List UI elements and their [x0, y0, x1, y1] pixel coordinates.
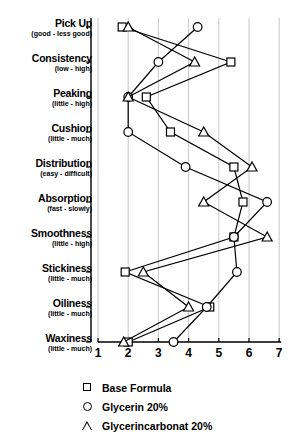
square-marker-icon: [80, 381, 96, 395]
x-tick-label-1: 1: [88, 346, 108, 360]
data-point-square: [230, 163, 238, 171]
circle-marker-icon: [80, 400, 96, 414]
plot-area: [0, 0, 299, 360]
legend-item-square[interactable]: Base Formula: [80, 381, 171, 395]
legend-item-circle[interactable]: Glycerin 20%: [80, 400, 168, 414]
legend-label: Base Formula: [102, 382, 171, 394]
data-point-square: [227, 58, 235, 66]
x-tick-label-6: 6: [239, 346, 259, 360]
legend-label: Glycerin 20%: [102, 401, 168, 413]
data-point-triangle: [199, 197, 209, 206]
data-point-circle: [181, 163, 190, 172]
x-tick-label-7: 7: [269, 346, 289, 360]
data-point-triangle: [184, 302, 194, 311]
data-point-circle: [263, 198, 272, 207]
data-point-square: [121, 268, 129, 276]
data-point-circle: [202, 303, 211, 312]
spider-line-chart: Pick Up(good - less good)Consistency(low…: [0, 0, 299, 439]
x-tick-label-5: 5: [209, 346, 229, 360]
legend-label: Glycerincarbonat 20%: [102, 420, 212, 432]
triangle-marker-icon: [80, 419, 96, 433]
data-point-triangle: [199, 127, 209, 136]
legend-item-triangle[interactable]: Glycerincarbonat 20%: [80, 419, 212, 433]
data-point-circle: [154, 58, 163, 67]
data-point-square: [239, 198, 247, 206]
data-point-triangle: [262, 232, 272, 241]
data-point-triangle: [190, 57, 200, 66]
data-point-circle: [233, 268, 242, 277]
x-tick-label-3: 3: [148, 346, 168, 360]
data-point-circle: [193, 23, 202, 32]
data-point-circle: [230, 233, 239, 242]
x-tick-label-4: 4: [179, 346, 199, 360]
x-tick-label-2: 2: [118, 346, 138, 360]
data-point-circle: [124, 128, 133, 137]
data-point-triangle: [247, 162, 257, 171]
series-line-circle: [128, 27, 267, 342]
data-point-square: [142, 93, 150, 101]
data-point-circle: [169, 338, 178, 347]
series-line-triangle: [124, 27, 267, 342]
data-point-square: [166, 128, 174, 136]
